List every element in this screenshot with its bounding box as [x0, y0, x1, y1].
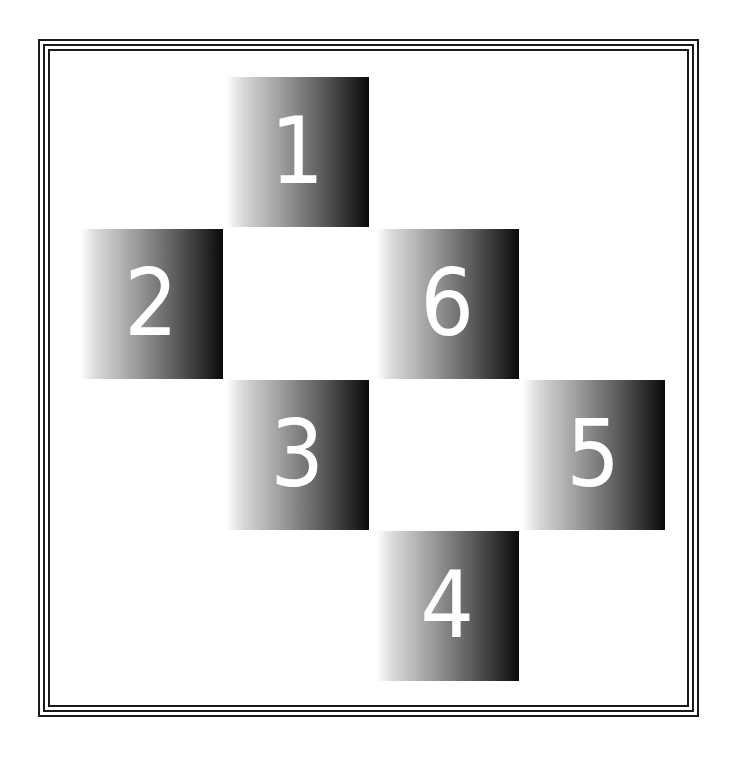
tile-number: 4: [421, 560, 475, 652]
tile-1: 1: [226, 77, 369, 227]
tile-number: 1: [271, 106, 325, 198]
tile-3: 3: [226, 380, 369, 530]
tile-5: 5: [522, 380, 665, 530]
tile-4: 4: [376, 531, 519, 681]
tile-2: 2: [80, 229, 223, 379]
tile-6: 6: [376, 229, 519, 379]
tile-number: 2: [125, 258, 179, 350]
tile-number: 3: [271, 409, 325, 501]
tile-number: 6: [421, 258, 475, 350]
tile-number: 5: [567, 409, 621, 501]
